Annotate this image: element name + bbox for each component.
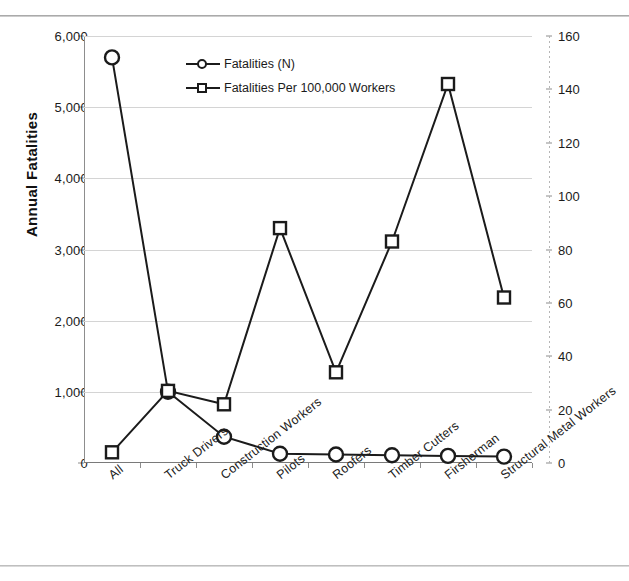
x-axis-tick	[252, 463, 253, 468]
right-axis-tick-label: 120	[558, 135, 598, 150]
line-chart: Annual Fatalities Fatality Incidence (Fa…	[0, 16, 629, 561]
square-marker-icon	[186, 81, 220, 95]
data-point-fatalities-per-100k-1	[162, 385, 174, 397]
left-axis-tick-label: 2,000	[28, 313, 88, 328]
left-axis-tick-label: 3,000	[28, 242, 88, 257]
data-point-fatalities-per-100k-6	[442, 78, 454, 90]
x-axis-tick	[476, 463, 477, 468]
x-axis-tick	[308, 463, 309, 468]
right-axis-tick-label: 0	[558, 456, 598, 471]
data-point-fatalities-n-0	[105, 50, 119, 64]
data-point-fatalities-n-5	[385, 448, 399, 462]
left-axis-tick-label: 0	[28, 456, 88, 471]
chart-page: Annual Fatalities Fatality Incidence (Fa…	[0, 0, 629, 581]
right-axis-tick-label: 100	[558, 189, 598, 204]
x-axis-tick	[420, 463, 421, 468]
x-axis-tick	[364, 463, 365, 468]
bottom-divider-rule	[0, 565, 629, 567]
chart-legend: Fatalities (N) Fatalities Per 100,000 Wo…	[186, 52, 395, 100]
left-axis-tick-label: 4,000	[28, 171, 88, 186]
data-point-fatalities-n-4	[329, 448, 343, 462]
data-point-fatalities-n-3	[273, 447, 287, 461]
x-axis-tick	[196, 463, 197, 468]
legend-item-fatalities-n: Fatalities (N)	[186, 52, 395, 76]
x-axis-tick	[140, 463, 141, 468]
right-axis-tick-label: 60	[558, 295, 598, 310]
data-point-fatalities-per-100k-5	[386, 236, 398, 248]
data-point-fatalities-per-100k-2	[218, 398, 230, 410]
legend-label-1: Fatalities Per 100,000 Workers	[224, 81, 395, 95]
legend-label-0: Fatalities (N)	[224, 57, 295, 71]
legend-item-fatalities-per-100k: Fatalities Per 100,000 Workers	[186, 76, 395, 100]
right-axis-tick-label: 140	[558, 82, 598, 97]
right-axis-tick-label: 80	[558, 242, 598, 257]
left-axis-tick-label: 1,000	[28, 384, 88, 399]
right-axis-line	[549, 36, 550, 463]
data-point-fatalities-per-100k-0	[106, 446, 118, 458]
x-axis-label-all: All	[106, 462, 126, 482]
data-point-fatalities-per-100k-4	[330, 366, 342, 378]
right-axis-tick-label: 160	[558, 29, 598, 44]
data-point-fatalities-per-100k-3	[274, 222, 286, 234]
left-axis-tick-label: 5,000	[28, 100, 88, 115]
left-axis-tick-label: 6,000	[28, 29, 88, 44]
right-axis-tick-label: 40	[558, 349, 598, 364]
data-point-fatalities-per-100k-7	[498, 292, 510, 304]
x-axis-tick	[532, 463, 533, 468]
circle-marker-icon	[186, 57, 220, 71]
